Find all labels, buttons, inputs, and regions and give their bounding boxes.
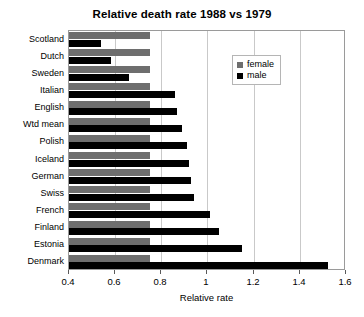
- y-label-estonia: Estonia: [0, 239, 64, 249]
- bar-iceland-male: [69, 160, 189, 167]
- bar-italian-male: [69, 91, 175, 98]
- bar-group: [69, 31, 344, 48]
- x-tick: [345, 270, 346, 274]
- y-label-finland: Finland: [0, 222, 64, 232]
- x-tick: [68, 270, 69, 274]
- plot-area: [68, 30, 345, 270]
- bar-french-male: [69, 211, 210, 218]
- bar-english-male: [69, 108, 177, 115]
- x-tick-label: 1.2: [233, 276, 273, 287]
- y-label-dutch: Dutch: [0, 51, 64, 61]
- bar-group: [69, 82, 344, 99]
- bar-group: [69, 151, 344, 168]
- legend-label: female: [247, 60, 274, 69]
- bar-estonia-male: [69, 245, 242, 252]
- bar-polish-female: [69, 135, 150, 142]
- legend-item-male[interactable]: male: [237, 70, 274, 81]
- bar-estonia-female: [69, 238, 150, 245]
- y-label-italian: Italian: [0, 85, 64, 95]
- legend-item-female[interactable]: female: [237, 59, 274, 70]
- y-label-english: English: [0, 102, 64, 112]
- bar-group: [69, 65, 344, 82]
- relative-death-rate-chart: Relative death rate 1988 vs 1979 Scotlan…: [0, 0, 364, 317]
- bar-group: [69, 185, 344, 202]
- x-tick-label: 1: [186, 276, 226, 287]
- chart-title: Relative death rate 1988 vs 1979: [0, 8, 364, 20]
- x-axis-title: Relative rate: [68, 292, 345, 303]
- bar-group: [69, 134, 344, 151]
- x-tick-label: 0.4: [48, 276, 88, 287]
- x-tick: [299, 270, 300, 274]
- bar-polish-male: [69, 142, 187, 149]
- bar-scotland-male: [69, 40, 101, 47]
- x-tick: [206, 270, 207, 274]
- x-axis-tick-labels: 0.40.60.811.21.41.6: [0, 276, 364, 290]
- legend-label: male: [247, 71, 267, 80]
- bar-german-female: [69, 169, 150, 176]
- bar-german-male: [69, 177, 191, 184]
- bar-group: [69, 48, 344, 65]
- bar-sweden-male: [69, 74, 129, 81]
- bar-denmark-female: [69, 255, 150, 262]
- legend-swatch-icon: [237, 62, 243, 68]
- bar-group: [69, 237, 344, 254]
- bar-group: [69, 117, 344, 134]
- bar-group: [69, 168, 344, 185]
- bar-english-female: [69, 101, 150, 108]
- x-tick-label: 0.8: [140, 276, 180, 287]
- bar-wtd-mean-female: [69, 118, 150, 125]
- x-tick-label: 1.4: [279, 276, 319, 287]
- bar-group: [69, 254, 344, 270]
- y-label-scotland: Scotland: [0, 34, 64, 44]
- y-label-french: French: [0, 205, 64, 215]
- bar-sweden-female: [69, 66, 150, 73]
- y-label-wtd-mean: Wtd mean: [0, 119, 64, 129]
- x-tick: [114, 270, 115, 274]
- bar-denmark-male: [69, 262, 328, 269]
- y-label-swiss: Swiss: [0, 188, 64, 198]
- bar-wtd-mean-male: [69, 125, 182, 132]
- y-label-sweden: Sweden: [0, 68, 64, 78]
- x-tick-label: 1.6: [325, 276, 364, 287]
- bar-iceland-female: [69, 152, 150, 159]
- y-axis-category-labels: ScotlandDutchSwedenItalianEnglishWtd mea…: [0, 30, 64, 270]
- bar-swiss-male: [69, 194, 194, 201]
- x-axis-ticks: [68, 270, 345, 275]
- bar-italian-female: [69, 83, 150, 90]
- x-tick: [253, 270, 254, 274]
- bar-group: [69, 220, 344, 237]
- bar-dutch-female: [69, 49, 150, 56]
- bar-french-female: [69, 203, 150, 210]
- bar-dutch-male: [69, 57, 111, 64]
- bar-finland-female: [69, 221, 150, 228]
- chart-legend: femalemale: [232, 55, 281, 85]
- y-label-polish: Polish: [0, 136, 64, 146]
- x-tick-label: 0.6: [94, 276, 134, 287]
- bar-swiss-female: [69, 186, 150, 193]
- bar-group: [69, 100, 344, 117]
- bar-scotland-female: [69, 32, 150, 39]
- bar-group: [69, 202, 344, 219]
- legend-swatch-icon: [237, 73, 243, 79]
- y-label-denmark: Denmark: [0, 256, 64, 266]
- x-tick: [160, 270, 161, 274]
- bar-finland-male: [69, 228, 219, 235]
- y-label-german: German: [0, 171, 64, 181]
- y-label-iceland: Iceland: [0, 154, 64, 164]
